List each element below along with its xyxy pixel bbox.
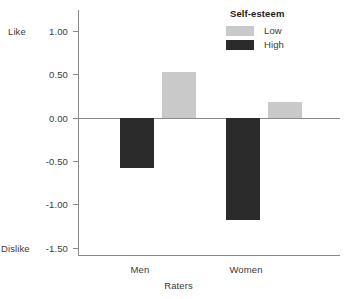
bar-women-high	[226, 118, 260, 220]
legend: Self-esteem Low High	[226, 9, 284, 54]
legend-item-low: Low	[226, 26, 284, 36]
legend-swatch-low-icon	[226, 26, 254, 36]
legend-item-high: High	[226, 40, 284, 50]
x-axis-spine	[78, 255, 340, 256]
legend-title: Self-esteem	[230, 9, 284, 19]
x-tick-label-women: Women	[206, 265, 286, 275]
bar-men-low	[162, 72, 196, 118]
zero-baseline	[78, 118, 340, 119]
x-tick-label-men: Men	[100, 265, 180, 275]
legend-label-high: High	[264, 40, 284, 50]
bar-chart: 1.00 0.50 0.00 -0.50 -1.00 -1.50 Like Di…	[0, 0, 357, 299]
bar-men-high	[120, 118, 154, 168]
y-tick-label-4: -0.50	[8, 157, 68, 167]
y-axis-top-label: Like	[8, 27, 66, 37]
bar-women-low	[268, 102, 302, 118]
y-tick-label-2: 0.50	[8, 70, 68, 80]
legend-label-low: Low	[264, 26, 282, 36]
legend-swatch-high-icon	[226, 40, 254, 50]
y-axis-bottom-label: Dislike	[1, 244, 59, 254]
y-tick-label-5: -1.00	[8, 200, 68, 210]
plot-area	[78, 10, 340, 255]
x-axis-title: Raters	[0, 281, 357, 291]
y-tick-label-3: 0.00	[8, 114, 68, 124]
